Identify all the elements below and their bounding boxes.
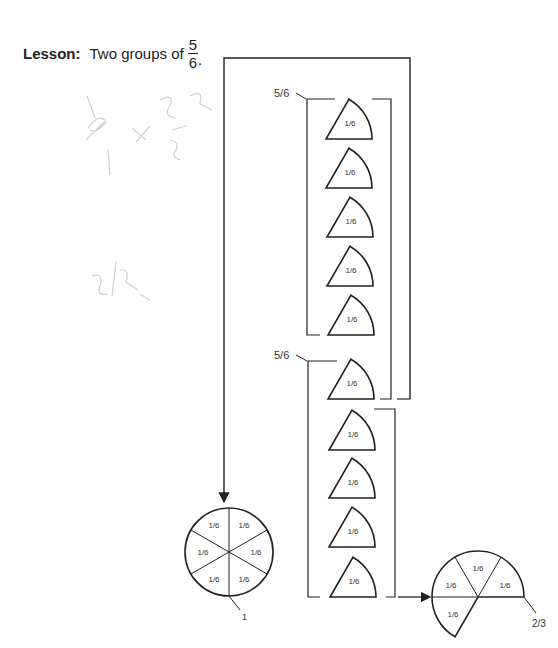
piece: 1/6 [328, 359, 374, 399]
svg-text:1/6: 1/6 [445, 581, 457, 590]
whole-circle-label: 1 [242, 612, 247, 622]
whole-circle: 1/6 1/6 1/6 1/6 1/6 1/6 1 [185, 508, 273, 622]
piece: 1/6 [326, 99, 372, 139]
outer-connector [224, 58, 410, 502]
piece: 1/6 [329, 507, 375, 547]
svg-text:1/6: 1/6 [250, 548, 262, 557]
group-2-label: 5/6 [274, 349, 289, 361]
result-circle: 1/6 1/6 1/6 1/6 2/3 [432, 551, 546, 637]
svg-text:1/6: 1/6 [346, 379, 358, 388]
pieces-column: 1/6 1/6 1/6 1/6 1/6 1/6 1/6 1/6 1/6 1/6 [326, 99, 376, 597]
svg-text:1/6: 1/6 [344, 168, 356, 177]
group-1-label: 5/6 [274, 87, 289, 99]
svg-text:1/6: 1/6 [346, 315, 358, 324]
svg-text:1/6: 1/6 [347, 478, 359, 487]
svg-text:1/6: 1/6 [238, 575, 250, 584]
fraction-diagram: 5/6 5/6 1/6 1/6 1/6 1/6 1/6 1/6 1/6 1/6 … [0, 0, 558, 648]
svg-text:1/6: 1/6 [345, 266, 357, 275]
piece: 1/6 [329, 410, 375, 450]
piece: 1/6 [326, 148, 372, 188]
handwritten-scribbles [86, 93, 212, 300]
svg-text:1/6: 1/6 [447, 610, 459, 619]
svg-text:1/6: 1/6 [208, 575, 220, 584]
piece: 1/6 [329, 458, 375, 498]
piece: 1/6 [328, 295, 374, 335]
svg-text:1/6: 1/6 [344, 119, 356, 128]
svg-text:1/6: 1/6 [348, 577, 360, 586]
svg-text:1/6: 1/6 [345, 217, 357, 226]
svg-text:1/6: 1/6 [347, 430, 359, 439]
piece: 1/6 [327, 246, 373, 286]
result-circle-label: 2/3 [532, 618, 546, 629]
svg-text:1/6: 1/6 [347, 527, 359, 536]
svg-text:1/6: 1/6 [238, 521, 250, 530]
piece: 1/6 [327, 197, 373, 237]
svg-text:1/6: 1/6 [208, 521, 220, 530]
svg-text:1/6: 1/6 [499, 581, 511, 590]
svg-text:1/6: 1/6 [472, 564, 484, 573]
piece: 1/6 [330, 557, 376, 597]
svg-text:1/6: 1/6 [197, 548, 209, 557]
